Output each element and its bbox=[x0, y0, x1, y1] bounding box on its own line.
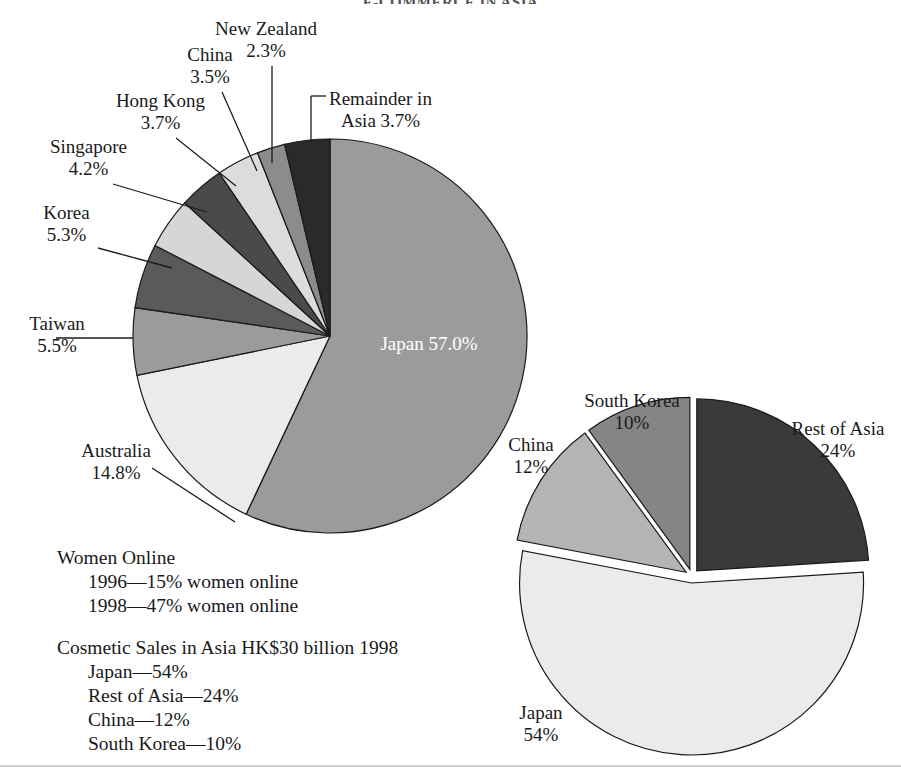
label2-japan-name: Japan bbox=[495, 702, 587, 724]
pie1-center-slice-label: Japan 57.0% bbox=[374, 333, 484, 355]
label2-japan-value: 54% bbox=[495, 724, 587, 746]
label2-china-value: 12% bbox=[485, 456, 577, 478]
label-hong-kong-name: Hong Kong bbox=[93, 90, 228, 112]
label-singapore-name: Singapore bbox=[26, 136, 151, 158]
label-singapore: Singapore 4.2% bbox=[26, 136, 151, 180]
label-singapore-value: 4.2% bbox=[26, 158, 151, 180]
label-australia: Australia 14.8% bbox=[51, 440, 181, 484]
label2-rest-of-asia-value: 24% bbox=[778, 440, 898, 462]
label2-rest-of-asia-name: Rest of Asia bbox=[778, 418, 898, 440]
label-hong-kong: Hong Kong 3.7% bbox=[93, 90, 228, 134]
label-korea: Korea 5.3% bbox=[14, 202, 119, 246]
notes-cosmetic-sales: Cosmetic Sales in Asia HK$30 billion 199… bbox=[57, 636, 398, 756]
label-china-name: China bbox=[155, 44, 265, 66]
notes-cosmetic-sales-item-1: Japan—54% bbox=[88, 660, 398, 684]
label-remainder-name: Remainder in bbox=[329, 88, 489, 110]
label2-china-name: China bbox=[485, 434, 577, 456]
notes-cosmetic-sales-item-2: Rest of Asia—24% bbox=[88, 684, 398, 708]
label-hong-kong-value: 3.7% bbox=[93, 112, 228, 134]
label-taiwan-value: 5.5% bbox=[2, 335, 112, 357]
label-korea-value: 5.3% bbox=[14, 224, 119, 246]
pie1-japan-name: Japan bbox=[380, 333, 423, 354]
figure-canvas: E-COMMERCE IN ASIA New Zealand 2.3% Chin… bbox=[0, 0, 901, 767]
notes-women-online-heading: Women Online bbox=[57, 546, 398, 570]
label-australia-value: 14.8% bbox=[51, 462, 181, 484]
notes-cosmetic-sales-heading: Cosmetic Sales in Asia HK$30 billion 199… bbox=[57, 636, 398, 660]
label2-japan: Japan 54% bbox=[495, 702, 587, 746]
label2-china: China 12% bbox=[485, 434, 577, 478]
notes-women-online: Women Online 1996—15% women online 1998—… bbox=[57, 546, 398, 618]
label2-rest-of-asia: Rest of Asia 24% bbox=[778, 418, 898, 462]
notes-women-online-item-2: 1998—47% women online bbox=[88, 594, 398, 618]
label-remainder-in-asia: Remainder in Asia 3.7% bbox=[329, 88, 489, 132]
notes-cosmetic-sales-item-3: China—12% bbox=[88, 708, 398, 732]
label-new-zealand-name: New Zealand bbox=[206, 18, 326, 40]
label2-south-korea: South Korea 10% bbox=[562, 390, 702, 434]
notes-block: Women Online 1996—15% women online 1998—… bbox=[57, 546, 398, 756]
label-australia-name: Australia bbox=[51, 440, 181, 462]
notes-cosmetic-sales-item-4: South Korea—10% bbox=[88, 732, 398, 756]
label2-south-korea-name: South Korea bbox=[562, 390, 702, 412]
label-taiwan-name: Taiwan bbox=[2, 313, 112, 335]
label-china: China 3.5% bbox=[155, 44, 265, 88]
label-korea-name: Korea bbox=[14, 202, 119, 224]
label-china-value: 3.5% bbox=[155, 66, 265, 88]
pie1-japan-value: 57.0% bbox=[428, 333, 477, 354]
notes-women-online-item-1: 1996—15% women online bbox=[88, 570, 398, 594]
label-remainder-value: Asia 3.7% bbox=[341, 110, 489, 132]
label-taiwan: Taiwan 5.5% bbox=[2, 313, 112, 357]
leader-hong-kong bbox=[176, 138, 236, 186]
label2-south-korea-value: 10% bbox=[562, 412, 702, 434]
